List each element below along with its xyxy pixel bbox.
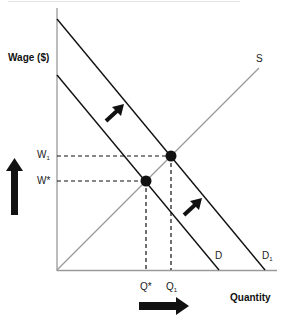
new-equilibrium-point bbox=[166, 151, 177, 162]
wstar-tick-label: W* bbox=[37, 175, 50, 186]
demand-shifted-label: D1 bbox=[262, 250, 273, 262]
demand-shifted-curve bbox=[57, 19, 265, 270]
q1-tick-label: Q1 bbox=[166, 281, 177, 293]
demand-label: D bbox=[215, 250, 222, 261]
w1-tick-label: W1 bbox=[37, 149, 50, 161]
demand-shift-arrow-lower bbox=[184, 198, 202, 215]
wage-increase-arrow-icon bbox=[6, 158, 23, 215]
quantity-increase-arrow-icon bbox=[139, 297, 189, 315]
initial-equilibrium-point bbox=[141, 176, 152, 187]
supply-label: S bbox=[256, 53, 263, 64]
y-axis-label: Wage ($) bbox=[8, 52, 49, 63]
demand-curve bbox=[57, 75, 219, 270]
x-axis-label: Quantity bbox=[230, 292, 271, 303]
supply-curve bbox=[57, 68, 259, 270]
qstar-tick-label: Q* bbox=[140, 281, 152, 292]
demand-shift-arrow-upper bbox=[106, 104, 124, 121]
